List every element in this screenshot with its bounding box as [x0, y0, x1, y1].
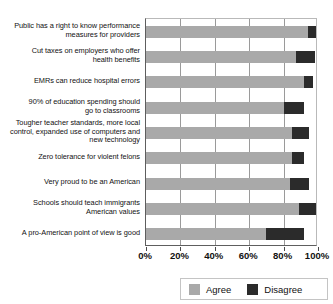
- bar-segment-agree: [146, 203, 299, 215]
- bar-segment-agree: [146, 178, 290, 190]
- legend-label-agree: Agree: [206, 284, 231, 295]
- category-label: Public has a right to know performanceme…: [0, 22, 140, 39]
- bar-row: [146, 26, 316, 38]
- bar-segment-disagree: [292, 127, 309, 139]
- bar-row: [146, 178, 309, 190]
- legend-item-agree[interactable]: Agree: [189, 284, 231, 295]
- category-label: A pro-American point of view is good: [0, 229, 140, 238]
- category-label: Zero tolerance for violent felons: [0, 153, 140, 162]
- plot-area: [145, 18, 317, 246]
- x-axis-tick-label: 40%: [204, 250, 223, 261]
- x-axis-tick-label: 60%: [239, 250, 258, 261]
- legend-label-disagree: Disagree: [264, 284, 302, 295]
- legend-swatch-disagree-icon: [247, 284, 258, 295]
- bar-segment-disagree: [284, 102, 305, 114]
- category-label: EMRs can reduce hospital errors: [0, 77, 140, 86]
- x-axis-tick-labels: 0%20%40%60%80%100%: [0, 250, 333, 264]
- category-label: Tougher teacher standards, more localcon…: [0, 119, 140, 145]
- category-label: Very proud to be an American: [0, 178, 140, 187]
- category-axis-labels: Public has a right to know performanceme…: [0, 18, 143, 246]
- bar-row: [146, 76, 313, 88]
- bar-row: [146, 228, 304, 240]
- bar-segment-disagree: [290, 178, 309, 190]
- legend-swatch-agree-icon: [189, 284, 200, 295]
- legend-item-disagree[interactable]: Disagree: [247, 284, 302, 295]
- bar-row: [146, 152, 304, 164]
- bar-segment-agree: [146, 152, 292, 164]
- bar-row: [146, 203, 316, 215]
- bar-segment-disagree: [266, 228, 304, 240]
- bar-row: [146, 127, 309, 139]
- bar-row: [146, 51, 315, 63]
- chart-legend: Agree Disagree: [180, 278, 328, 300]
- bar-segment-agree: [146, 26, 308, 38]
- x-axis-tick-label: 0%: [138, 250, 152, 261]
- bar-segment-disagree: [292, 152, 304, 164]
- category-label: Schools should teach immigrantsAmerican …: [0, 199, 140, 216]
- x-axis-tick-label: 100%: [305, 250, 329, 261]
- bar-segment-disagree: [296, 51, 315, 63]
- bar-row: [146, 102, 304, 114]
- bar-segment-agree: [146, 76, 304, 88]
- bar-segment-agree: [146, 51, 296, 63]
- stacked-bar-chart: Public has a right to know performanceme…: [0, 0, 333, 304]
- x-axis-tick-label: 80%: [273, 250, 292, 261]
- bar-segment-disagree: [308, 26, 317, 38]
- category-label: 90% of education spending shouldgo to cl…: [0, 98, 140, 115]
- chart-title-clipped: [0, 0, 333, 8]
- bar-segment-agree: [146, 102, 284, 114]
- bar-segment-disagree: [304, 76, 313, 88]
- bar-segment-agree: [146, 127, 292, 139]
- category-label: Cut taxes on employers who offerhealth b…: [0, 47, 140, 64]
- x-axis-tick-label: 20%: [170, 250, 189, 261]
- plot-wrapper: Public has a right to know performanceme…: [0, 18, 333, 246]
- bar-segment-disagree: [299, 203, 316, 215]
- bar-segment-agree: [146, 228, 266, 240]
